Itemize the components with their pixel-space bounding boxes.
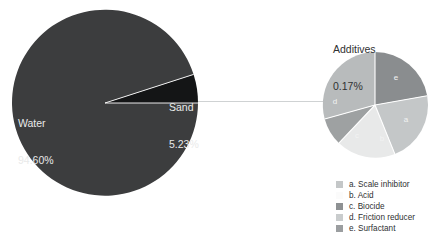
additives-callout-group: Additives 0.17%	[333, 18, 376, 117]
legend-swatch-b	[336, 192, 343, 199]
legend-label-c: c. Biocide	[349, 201, 385, 212]
sand-label-group: Sand 5.23%	[169, 76, 199, 175]
sand-label-name: Sand	[169, 101, 199, 113]
legend-swatch-c	[336, 203, 343, 210]
legend-item-b[interactable]: b. Acid	[336, 190, 442, 201]
legend-label-d: d. Friction reducer	[349, 212, 415, 223]
additives-callout-title: Additives	[333, 43, 376, 55]
legend: a. Scale inhibitor b. Acid c. Biocide d.…	[336, 179, 442, 234]
slice-letter-d: d	[333, 97, 338, 106]
legend-item-c[interactable]: c. Biocide	[336, 201, 442, 212]
legend-label-a: a. Scale inhibitor	[349, 179, 410, 190]
water-label-percent: 94.60%	[18, 154, 54, 166]
chart-canvas: Water 94.60% Sand 5.23% Additives 0.17% …	[0, 0, 444, 246]
legend-swatch-e	[336, 225, 343, 232]
water-label-name: Water	[18, 117, 54, 129]
slice-letter-c: c	[355, 131, 359, 140]
legend-item-e[interactable]: e. Surfactant	[336, 223, 442, 234]
sand-label-percent: 5.23%	[169, 138, 199, 150]
additives-callout-percent: 0.17%	[333, 80, 376, 92]
slice-letter-b: b	[380, 134, 385, 143]
legend-item-d[interactable]: d. Friction reducer	[336, 212, 442, 223]
legend-label-e: e. Surfactant	[349, 223, 395, 234]
legend-swatch-a	[336, 181, 343, 188]
legend-swatch-d	[336, 214, 343, 221]
legend-item-a[interactable]: a. Scale inhibitor	[336, 179, 442, 190]
slice-letter-a: a	[404, 115, 409, 124]
water-label-group: Water 94.60%	[18, 92, 54, 191]
legend-label-b: b. Acid	[349, 190, 374, 201]
slice-letter-e: e	[394, 73, 399, 82]
